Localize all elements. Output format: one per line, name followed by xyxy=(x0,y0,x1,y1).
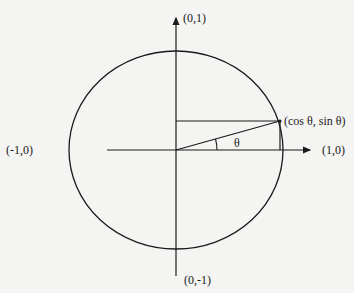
label-top-0-1: (0,1) xyxy=(183,12,206,24)
label-right-1-0: (1,0) xyxy=(322,144,345,156)
label-theta: θ xyxy=(234,137,240,149)
diagram-canvas xyxy=(0,0,354,293)
unit-circle-diagram: (0,1) (0,-1) (-1,0) (1,0) (cos θ, sin θ)… xyxy=(0,0,354,293)
label-bottom-0-neg1: (0,-1) xyxy=(184,274,211,286)
angle-arc xyxy=(216,139,218,150)
label-point-cos-sin: (cos θ, sin θ) xyxy=(284,115,346,127)
radius-line xyxy=(176,121,280,150)
label-left-neg1-0: (-1,0) xyxy=(6,144,33,156)
point-marker xyxy=(278,119,281,122)
